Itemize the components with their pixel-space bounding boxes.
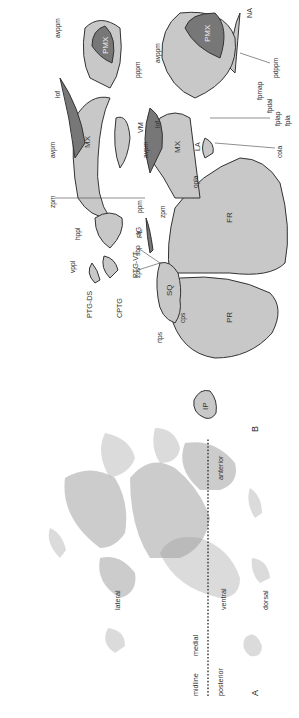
annot-avppm-bottom: avppm: [54, 18, 62, 38]
label-posterior: posterior: [216, 667, 225, 696]
annot-zpm-bottom: zpm: [49, 195, 57, 208]
specimen-lateral-strip: [49, 528, 66, 558]
annot-cola: cola: [276, 146, 283, 158]
bone-vm: [115, 117, 130, 168]
label-mx-top: MX: [173, 140, 182, 153]
bone-ptg-vt: [103, 256, 118, 278]
specimen-vomer-maxilla: [64, 471, 126, 549]
annot-hppl: hppl: [74, 227, 82, 240]
specimen-premaxilla: [153, 428, 180, 463]
label-lateral: lateral: [113, 590, 122, 610]
annot-lof-bottom: lof: [54, 91, 61, 98]
annot-fpmap: fpmap: [256, 81, 264, 100]
label-anterior: anterior: [216, 455, 225, 480]
label-ip: IP: [201, 402, 210, 410]
label-pmx-bottom: PMX: [101, 36, 110, 54]
annot-zps: zps: [134, 267, 142, 278]
panel-a-specimens: [49, 428, 270, 656]
specimen-squamosal: [252, 558, 270, 583]
annot-zpm-top: zpm: [159, 205, 167, 218]
label-ventral: ventral: [219, 588, 228, 610]
label-pmx-top: PMX: [203, 24, 212, 42]
specimen-pterygoid: [105, 628, 125, 653]
label-medial: medial: [191, 634, 200, 656]
figure-svg: A dorsal ventral posterior anterior midl…: [0, 0, 299, 718]
annot-pppm: pppm: [134, 61, 142, 78]
annot-pdppm: pdppm: [272, 57, 280, 78]
specimen-small-posterior: [243, 634, 262, 656]
specimen-premaxilla-ventral: [101, 433, 135, 478]
label-ptg-ds: PTG-DS: [85, 291, 94, 318]
panel-label-b: B: [250, 426, 260, 432]
annot-ppm: ppm: [136, 200, 144, 213]
annot-rtps: rtps: [156, 331, 164, 343]
bone-pl: [95, 213, 123, 248]
label-pl: PL: [135, 229, 144, 238]
annot-cps: cps: [179, 312, 187, 323]
panel-label-a: A: [250, 690, 260, 696]
annot-lof-top: lof: [154, 121, 161, 128]
annot-fpla: fpla: [284, 115, 292, 126]
label-pr: PR: [225, 312, 234, 323]
annot-avpm-bottom: avpm: [49, 141, 57, 158]
annot-fplap: fplap: [274, 111, 282, 126]
label-dorsal: dorsal: [261, 590, 270, 610]
label-fr: FR: [225, 212, 234, 223]
annot-vppl: vppl: [69, 260, 77, 273]
label-na: NA: [245, 8, 254, 18]
label-vm: VM: [136, 122, 145, 133]
bone-ptg-ds: [89, 263, 100, 283]
specimen-jugal: [248, 488, 262, 518]
label-mx-bottom: MX: [83, 135, 92, 148]
figure-canvas: A dorsal ventral posterior anterior midl…: [0, 0, 299, 718]
bone-jg: [146, 218, 153, 253]
annot-avpm-top: avpm: [142, 141, 150, 158]
label-la: LA: [193, 142, 202, 151]
annot-avppm-top: avppm: [154, 43, 162, 63]
annot-fpdal: fpdal: [266, 98, 274, 113]
label-midline: midline: [191, 673, 200, 696]
annot-sbp: sbp: [134, 245, 142, 256]
label-sq: SQ: [165, 284, 174, 296]
label-cptg: CPTG: [115, 298, 124, 318]
bone-la: [203, 138, 214, 158]
annot-opla: opla: [192, 175, 200, 188]
